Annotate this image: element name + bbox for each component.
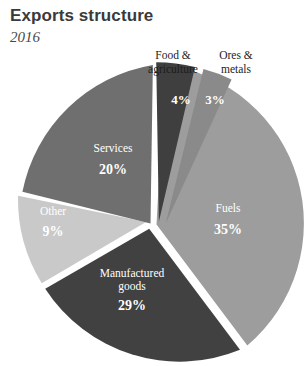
pie-label-food-agriculture: Food & agriculture bbox=[140, 49, 206, 76]
pie-slice-services-label: Services bbox=[94, 142, 133, 154]
pie-slice-food-agriculture-value: 4% bbox=[171, 92, 191, 107]
pie-slice-fuels-value: 35% bbox=[214, 222, 242, 237]
pie-slice-other-value: 9% bbox=[43, 224, 64, 239]
pie-label-ores-metals: Ores & metals bbox=[207, 49, 265, 76]
pie-slice-fuels-label: Fuels bbox=[216, 202, 241, 214]
chart-page: Exports structure 2016 Fuels 35% Manufac… bbox=[0, 0, 308, 366]
pie-slice-manufactured-goods-value: 29% bbox=[118, 298, 146, 313]
pie-slice-ores-metals-value: 3% bbox=[205, 92, 225, 107]
pie-slice-services[interactable]: Services 20% bbox=[22, 65, 152, 223]
pie-slice-other-label: Other bbox=[40, 205, 66, 217]
pie-slice-services-wedge[interactable] bbox=[22, 65, 152, 223]
pie-slice-manufactured-goods-label-line2: goods bbox=[118, 280, 146, 293]
pie-slice-services-value: 20% bbox=[99, 162, 127, 177]
pie-slice-manufactured-goods-label-line1: Manufactured bbox=[100, 267, 165, 279]
